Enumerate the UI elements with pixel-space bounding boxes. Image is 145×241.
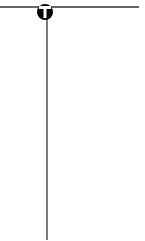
diagram-svg	[0, 0, 145, 241]
t-junction-icon	[37, 4, 53, 20]
diagram-canvas	[0, 0, 145, 241]
